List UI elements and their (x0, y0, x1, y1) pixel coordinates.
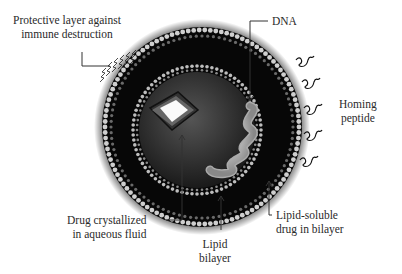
label-drug-line2: in aqueous fluid (67, 227, 147, 241)
label-homing-line1: Homing (339, 97, 377, 111)
liposome-diagram: Protective layer against immune destruct… (0, 0, 402, 274)
label-protective-line1: Protective layer against (13, 13, 121, 27)
label-dna-text: DNA (272, 15, 297, 27)
label-drug-line1: Drug crystallized (67, 213, 147, 227)
label-protective-line2: immune destruction (13, 27, 121, 41)
aqueous-core (139, 72, 255, 188)
label-lipid-soluble-drug: Lipid-soluble drug in bilayer (276, 208, 344, 236)
label-drug-crystallized: Drug crystallized in aqueous fluid (67, 213, 147, 241)
label-homing-line2: peptide (339, 111, 377, 125)
label-homing-peptide: Homing peptide (339, 97, 377, 125)
label-lipid-soluble-line1: Lipid-soluble (276, 208, 344, 222)
label-lipid-line2: bilayer (199, 251, 231, 265)
label-lipid-line1: Lipid (199, 237, 231, 251)
label-protective-layer: Protective layer against immune destruct… (13, 13, 121, 41)
label-lipid-bilayer: Lipid bilayer (199, 237, 231, 265)
label-lipid-soluble-line2: drug in bilayer (276, 222, 344, 236)
label-dna: DNA (272, 14, 297, 28)
